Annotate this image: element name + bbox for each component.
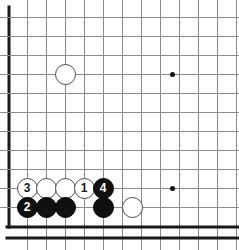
- board-stones: 3142: [0, 0, 239, 250]
- stone-white-f[interactable]: [122, 197, 143, 218]
- stone-black-c[interactable]: [36, 197, 57, 218]
- stone-move-number: 4: [100, 182, 107, 194]
- stone-move-number: 1: [81, 182, 88, 194]
- stone-white-3[interactable]: 3: [17, 178, 38, 199]
- stone-black-d[interactable]: [55, 197, 76, 218]
- stone-move-number: 3: [24, 182, 31, 194]
- stone-black-4[interactable]: 4: [93, 178, 114, 199]
- stone-white-1[interactable]: 1: [74, 178, 95, 199]
- stone-white-b[interactable]: [55, 178, 76, 199]
- stone-move-number: 2: [24, 201, 31, 213]
- stone-black-e[interactable]: [93, 197, 114, 218]
- stone-black-2[interactable]: 2: [17, 197, 38, 218]
- stone-white-a[interactable]: [36, 178, 57, 199]
- stone-white-corner-approach[interactable]: [55, 64, 76, 85]
- go-board-diagram: 3142: [0, 0, 239, 250]
